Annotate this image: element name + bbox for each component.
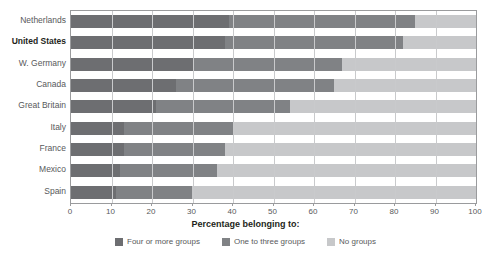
axis-title: Percentage belonging to: xyxy=(0,219,491,229)
y-axis-label-netherlands: Netherlands xyxy=(0,14,66,27)
bar-segment[interactable] xyxy=(71,58,193,71)
y-axis-label-spain: Spain xyxy=(0,185,66,198)
chart-legend: Four or more groupsOne to three groupsNo… xyxy=(0,237,491,246)
x-tick-label-50: 50 xyxy=(268,207,277,216)
x-tick-mark-40 xyxy=(232,203,233,206)
x-tick-mark-90 xyxy=(435,203,436,206)
x-tick-label-30: 30 xyxy=(187,207,196,216)
legend-swatch-icon xyxy=(222,238,230,246)
bar-segment[interactable] xyxy=(229,15,415,28)
x-tick-mark-20 xyxy=(151,203,152,206)
bar-row[interactable] xyxy=(71,186,476,199)
x-tick-label-0: 0 xyxy=(68,207,72,216)
bar-row[interactable] xyxy=(71,15,476,28)
x-tick-label-90: 90 xyxy=(430,207,439,216)
bar-segment[interactable] xyxy=(156,100,290,113)
bar-segment[interactable] xyxy=(290,100,476,113)
bar-segment[interactable] xyxy=(233,122,476,135)
legend-label: One to three groups xyxy=(234,237,305,246)
bar-segment[interactable] xyxy=(71,186,116,199)
bar-segment[interactable] xyxy=(71,143,124,156)
bar-segment[interactable] xyxy=(217,164,476,177)
bar-segment[interactable] xyxy=(225,36,403,49)
bar-segment[interactable] xyxy=(71,36,225,49)
bar-segment[interactable] xyxy=(225,143,476,156)
bar-segment[interactable] xyxy=(71,164,120,177)
y-axis-label-w-germany: W. Germany xyxy=(0,57,66,70)
legend-item[interactable]: No groups xyxy=(327,237,376,246)
x-tick-label-20: 20 xyxy=(147,207,156,216)
bar-segment[interactable] xyxy=(192,186,476,199)
bar-segment[interactable] xyxy=(415,15,476,28)
x-tick-mark-0 xyxy=(70,203,71,206)
bar-segment[interactable] xyxy=(176,79,334,92)
x-tick-label-60: 60 xyxy=(309,207,318,216)
bar-segment[interactable] xyxy=(403,36,476,49)
bar-segment[interactable] xyxy=(71,15,229,28)
bar-segment[interactable] xyxy=(116,186,193,199)
x-tick-mark-80 xyxy=(394,203,395,206)
x-tick-mark-50 xyxy=(273,203,274,206)
y-axis-label-mexico: Mexico xyxy=(0,163,66,176)
legend-label: No groups xyxy=(339,237,376,246)
y-axis-label-great-britain: Great Britain xyxy=(0,99,66,112)
bar-row[interactable] xyxy=(71,100,476,113)
legend-swatch-icon xyxy=(115,238,123,246)
bar-segment[interactable] xyxy=(193,58,343,71)
x-axis: 0102030405060708090100 xyxy=(70,203,477,219)
x-tick-mark-60 xyxy=(313,203,314,206)
x-tick-mark-10 xyxy=(111,203,112,206)
y-axis-label-france: France xyxy=(0,142,66,155)
stacked-bar-chart: Netherlands United States W. Germany Can… xyxy=(0,0,491,253)
legend-label: Four or more groups xyxy=(127,237,200,246)
bar-series-container xyxy=(71,11,476,203)
bar-segment[interactable] xyxy=(334,79,476,92)
bar-row[interactable] xyxy=(71,79,476,92)
bar-row[interactable] xyxy=(71,58,476,71)
x-tick-mark-30 xyxy=(192,203,193,206)
y-axis-label-italy: Italy xyxy=(0,121,66,134)
y-axis-label-united-states: United States xyxy=(0,35,66,48)
bar-segment[interactable] xyxy=(342,58,476,71)
x-tick-label-10: 10 xyxy=(106,207,115,216)
bar-segment[interactable] xyxy=(71,79,176,92)
x-tick-label-80: 80 xyxy=(390,207,399,216)
bar-row[interactable] xyxy=(71,36,476,49)
bar-segment[interactable] xyxy=(124,143,225,156)
plot-area xyxy=(70,10,477,204)
x-tick-mark-100 xyxy=(475,203,476,206)
bar-segment[interactable] xyxy=(71,100,156,113)
bar-row[interactable] xyxy=(71,143,476,156)
x-tick-label-40: 40 xyxy=(228,207,237,216)
y-axis-label-canada: Canada xyxy=(0,78,66,91)
y-axis-category-labels: Netherlands United States W. Germany Can… xyxy=(0,10,66,202)
legend-item[interactable]: One to three groups xyxy=(222,237,305,246)
x-tick-label-70: 70 xyxy=(349,207,358,216)
legend-item[interactable]: Four or more groups xyxy=(115,237,200,246)
bar-segment[interactable] xyxy=(120,164,217,177)
legend-swatch-icon xyxy=(327,238,335,246)
x-tick-mark-70 xyxy=(354,203,355,206)
bar-row[interactable] xyxy=(71,164,476,177)
bar-row[interactable] xyxy=(71,122,476,135)
bar-segment[interactable] xyxy=(71,122,124,135)
bar-segment[interactable] xyxy=(124,122,233,135)
x-tick-label-100: 100 xyxy=(468,207,481,216)
